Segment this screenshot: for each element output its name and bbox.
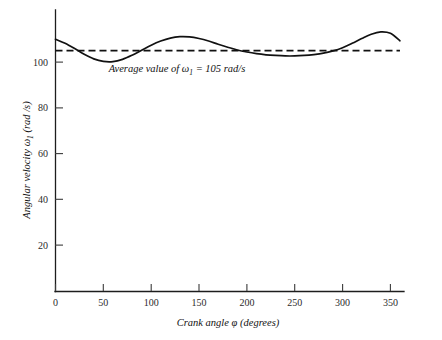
x-tick-labels: 0 50 100 150 200 250 300 350	[53, 297, 398, 308]
x-tick-label-0: 0	[53, 297, 58, 308]
annotation-prefix: Average value of	[108, 63, 182, 74]
angular-velocity-curve	[56, 32, 400, 62]
y-tick-label-60: 60	[38, 148, 48, 159]
y-tick-label-80: 80	[38, 102, 48, 113]
y-tick-label-100: 100	[33, 57, 48, 68]
y-axis-title-omega-symbol: ω	[21, 139, 32, 146]
y-axis-title: Angular velocity ω1 (rad /s)	[21, 101, 35, 220]
x-axis-title-prefix: Crank angle	[177, 317, 232, 328]
x-tick-label-350: 350	[383, 297, 398, 308]
x-tick-label-50: 50	[98, 297, 108, 308]
x-axis-title-suffix: (degrees)	[237, 317, 279, 329]
y-axis-title-prefix: Angular velocity	[21, 146, 32, 219]
y-tick-label-20: 20	[38, 240, 48, 251]
x-tick-label-250: 250	[287, 297, 302, 308]
average-value-annotation: Average value of ω1 = 105 rad/s	[108, 63, 246, 77]
annotation-suffix: = 105 rad/s	[193, 63, 245, 74]
annotation-omega-symbol: ω	[182, 63, 189, 74]
axes-group	[55, 10, 404, 292]
x-axis-title: Crank angle φ (degrees)	[177, 317, 280, 329]
chart-canvas: 100 80 60 40 20 0 50 100 150 200 250 300	[0, 0, 442, 340]
y-tick-marks	[55, 62, 63, 245]
x-tick-marks	[56, 284, 391, 291]
y-tick-labels: 100 80 60 40 20	[33, 57, 48, 251]
x-tick-label-300: 300	[335, 297, 350, 308]
x-tick-label-200: 200	[239, 297, 254, 308]
y-axis-title-suffix: (rad /s)	[21, 101, 33, 135]
y-tick-label-40: 40	[38, 194, 48, 205]
angular-velocity-chart: 100 80 60 40 20 0 50 100 150 200 250 300	[0, 0, 442, 340]
x-tick-label-150: 150	[192, 297, 207, 308]
x-tick-label-100: 100	[144, 297, 159, 308]
